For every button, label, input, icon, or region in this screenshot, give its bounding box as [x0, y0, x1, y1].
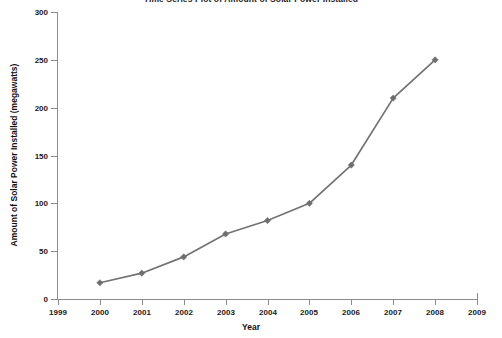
y-axis-title-wrapper: Amount of Solar Power Installed (megawat…: [4, 0, 24, 310]
data-point-marker: [139, 270, 145, 276]
series-line: [100, 60, 435, 283]
data-point-marker: [181, 254, 187, 260]
line-series-layer: [0, 0, 502, 338]
data-point-marker: [223, 231, 229, 237]
y-axis-title: Amount of Solar Power Installed (megawat…: [9, 64, 19, 247]
data-point-marker: [97, 280, 103, 286]
data-point-marker: [264, 217, 270, 223]
chart-screenshot: Time Series Plot of Amount of Solar Powe…: [0, 0, 502, 338]
x-axis-title: Year: [0, 322, 502, 332]
series-markers: [97, 57, 438, 286]
